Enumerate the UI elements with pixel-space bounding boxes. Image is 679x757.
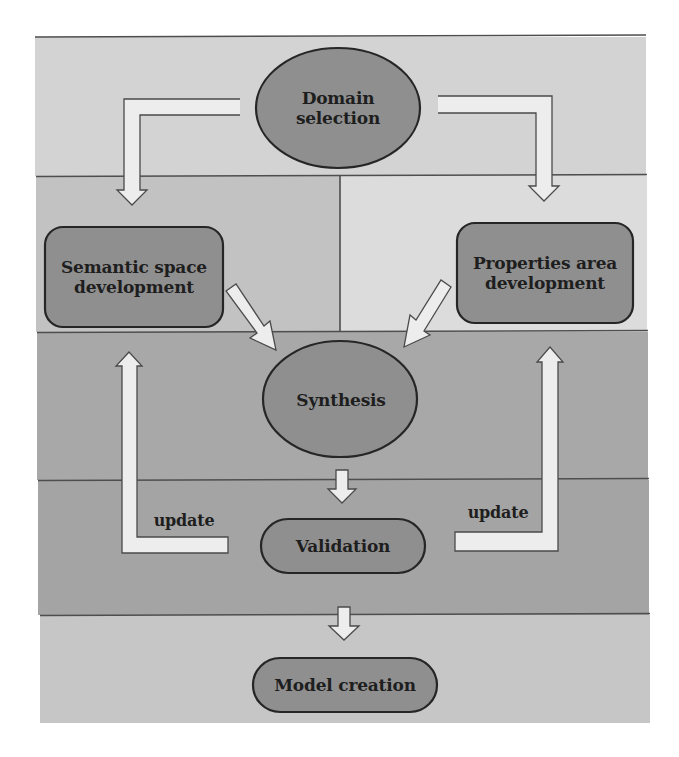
node-semantic-space: Semantic space development: [45, 247, 223, 307]
divider-top: [35, 35, 646, 37]
update-right-text: update: [468, 503, 529, 522]
update-left-text: update: [154, 511, 215, 530]
edge-label-update-left: update: [144, 510, 224, 532]
properties-area-line1: Properties area: [473, 253, 617, 273]
node-domain-selection: Domain selection: [258, 78, 418, 138]
validation-label: Validation: [296, 536, 390, 556]
node-properties-area: Properties area development: [457, 243, 633, 303]
node-model-creation: Model creation: [253, 668, 437, 702]
node-synthesis: Synthesis: [263, 383, 419, 417]
semantic-space-line1: Semantic space: [61, 257, 207, 277]
semantic-space-line2: development: [74, 277, 194, 297]
domain-selection-line2: selection: [296, 108, 380, 128]
properties-area-line2: development: [485, 273, 605, 293]
edge-label-update-right: update: [458, 502, 538, 524]
domain-selection-line1: Domain: [302, 88, 375, 108]
node-validation: Validation: [261, 529, 425, 563]
model-creation-label: Model creation: [274, 675, 416, 695]
synthesis-label: Synthesis: [296, 390, 385, 410]
